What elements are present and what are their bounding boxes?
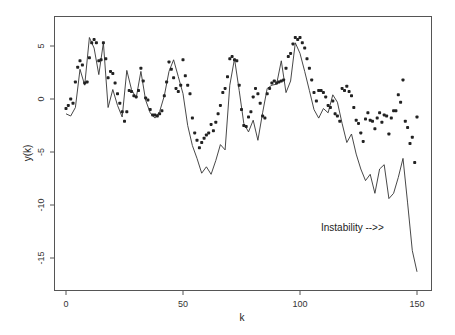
data-point bbox=[285, 67, 288, 70]
y-tick-label: -15 bbox=[36, 251, 46, 264]
chart: 050100150 50-5-10-15 Instability -->> k … bbox=[0, 0, 455, 335]
data-point bbox=[139, 67, 142, 70]
data-point bbox=[399, 101, 402, 104]
data-point bbox=[123, 120, 126, 123]
data-point bbox=[95, 41, 98, 44]
data-point bbox=[287, 55, 290, 58]
data-point bbox=[172, 76, 175, 79]
data-point bbox=[116, 92, 119, 95]
data-point bbox=[380, 121, 383, 124]
data-point bbox=[142, 80, 145, 83]
data-point bbox=[322, 91, 325, 94]
data-point bbox=[343, 89, 346, 92]
data-point bbox=[355, 119, 358, 122]
data-point bbox=[249, 110, 252, 113]
y-axis-label: y(k) bbox=[22, 145, 33, 162]
data-point bbox=[245, 125, 248, 128]
data-point bbox=[238, 84, 241, 87]
data-point bbox=[226, 75, 229, 78]
data-point bbox=[352, 106, 355, 109]
data-point bbox=[406, 126, 409, 129]
data-point bbox=[397, 93, 400, 96]
data-point bbox=[231, 55, 234, 58]
data-point bbox=[207, 131, 210, 134]
y-tick-label: -10 bbox=[36, 198, 46, 211]
data-point bbox=[331, 100, 334, 103]
data-point bbox=[266, 92, 269, 95]
data-point bbox=[100, 58, 103, 61]
data-point bbox=[387, 133, 390, 136]
data-point bbox=[168, 60, 171, 63]
data-point bbox=[308, 67, 311, 70]
data-point bbox=[385, 115, 388, 118]
data-point bbox=[198, 146, 201, 149]
y-tick-label: 5 bbox=[36, 43, 46, 48]
data-point bbox=[364, 118, 367, 121]
data-point bbox=[74, 81, 77, 84]
data-point bbox=[336, 115, 339, 118]
data-point bbox=[182, 58, 185, 61]
data-point bbox=[252, 95, 255, 98]
data-point bbox=[175, 87, 178, 90]
data-point bbox=[67, 104, 70, 107]
data-point bbox=[217, 112, 220, 115]
data-point bbox=[411, 136, 414, 139]
series-line bbox=[66, 38, 417, 272]
data-point bbox=[196, 139, 199, 142]
data-point bbox=[357, 122, 360, 125]
data-point bbox=[348, 90, 351, 93]
data-point bbox=[373, 127, 376, 130]
data-point bbox=[301, 41, 304, 44]
data-point bbox=[404, 120, 407, 123]
data-point bbox=[177, 90, 180, 93]
data-point bbox=[289, 52, 292, 55]
data-point bbox=[130, 90, 133, 93]
plot-frame bbox=[55, 17, 432, 291]
data-point bbox=[263, 117, 266, 120]
data-point bbox=[165, 81, 168, 84]
data-point bbox=[163, 94, 166, 97]
y-tick-label: 0 bbox=[36, 96, 46, 101]
data-point bbox=[366, 111, 369, 114]
data-point bbox=[310, 78, 313, 81]
data-point bbox=[76, 66, 79, 69]
data-point bbox=[203, 137, 206, 140]
data-point bbox=[90, 41, 93, 44]
data-point bbox=[413, 161, 416, 164]
y-axis: 50-5-10-15 bbox=[36, 43, 54, 264]
data-point bbox=[292, 42, 295, 45]
data-point bbox=[282, 78, 285, 81]
data-point bbox=[137, 89, 140, 92]
x-tick-label: 150 bbox=[409, 299, 424, 309]
data-point bbox=[107, 76, 110, 79]
data-point bbox=[179, 84, 182, 87]
data-point bbox=[402, 78, 405, 81]
data-point bbox=[303, 47, 306, 50]
data-point bbox=[69, 98, 72, 101]
data-point bbox=[247, 116, 250, 119]
data-point bbox=[409, 142, 412, 145]
data-point bbox=[149, 108, 152, 111]
data-point bbox=[86, 81, 89, 84]
data-point bbox=[170, 68, 173, 71]
data-point bbox=[160, 109, 163, 112]
data-point bbox=[210, 123, 213, 126]
data-point bbox=[221, 91, 224, 94]
data-point bbox=[240, 108, 243, 111]
data-point bbox=[329, 106, 332, 109]
y-tick-label: -5 bbox=[36, 148, 46, 156]
data-point bbox=[193, 131, 196, 134]
data-point bbox=[235, 59, 238, 62]
data-point bbox=[324, 95, 327, 98]
data-point bbox=[93, 38, 96, 41]
data-point bbox=[219, 104, 222, 107]
x-tick-label: 100 bbox=[292, 299, 307, 309]
data-point bbox=[259, 102, 262, 105]
data-point bbox=[362, 140, 365, 143]
data-point bbox=[102, 41, 105, 44]
data-point bbox=[200, 141, 203, 144]
data-point bbox=[345, 85, 348, 88]
data-point bbox=[350, 94, 353, 97]
x-axis-label: k bbox=[240, 312, 246, 323]
data-point bbox=[313, 91, 316, 94]
